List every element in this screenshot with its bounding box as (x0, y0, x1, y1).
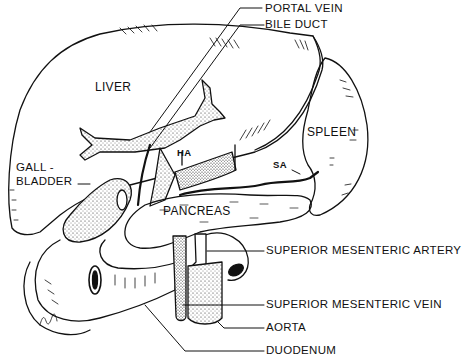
label-gallbladder-line1: GALL - (16, 160, 72, 174)
label-liver: LIVER (95, 81, 131, 93)
bile-duct (138, 145, 150, 205)
anatomy-diagram: PORTAL VEIN BILE DUCT LIVER SPLEEN GALL … (0, 0, 473, 362)
label-bile-duct: BILE DUCT (265, 19, 328, 31)
label-gallbladder-line2: BLADDER (16, 174, 72, 188)
label-gallbladder: GALL - BLADDER (16, 160, 72, 189)
label-splenic-artery: SA (273, 160, 287, 170)
label-superior-mesenteric-artery: SUPERIOR MESENTERIC ARTERY (266, 245, 461, 257)
superior-mesenteric-vein (173, 236, 186, 321)
pancreas-outline (125, 194, 311, 248)
label-portal-vein: PORTAL VEIN (265, 3, 343, 15)
label-spleen: SPLEEN (307, 126, 356, 138)
leader-aorta (218, 322, 264, 328)
leader-sa (292, 170, 300, 174)
label-superior-mesenteric-vein: SUPERIOR MESENTERIC VEIN (266, 299, 442, 311)
label-duodenum: DUODENUM (266, 345, 336, 357)
label-hepatic-artery: HA (177, 148, 191, 158)
label-aorta: AORTA (266, 322, 306, 334)
duodenum-outline (35, 240, 178, 321)
aorta (188, 262, 222, 324)
label-pancreas: PANCREAS (163, 205, 231, 217)
